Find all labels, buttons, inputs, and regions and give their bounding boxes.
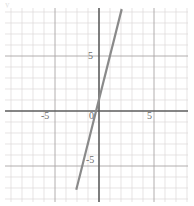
series-line	[77, 10, 122, 189]
tick-label-x-5: 5	[147, 111, 152, 121]
plot-area	[5, 8, 188, 202]
coordinate-plane-figure: y	[0, 0, 194, 206]
tick-label-x-negative-5: -5	[41, 111, 49, 121]
plotted-line	[5, 8, 188, 202]
tick-label-y-5: 5	[88, 51, 93, 61]
tick-label-origin: 0	[89, 111, 94, 121]
tick-label-y-negative-5: -5	[86, 155, 94, 165]
